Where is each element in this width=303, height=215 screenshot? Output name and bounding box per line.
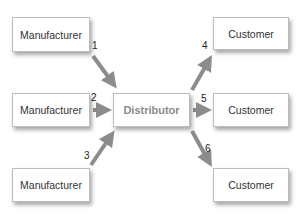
manufacturer-label: Manufacturer [20,104,82,116]
manufacturer-box-1: Manufacturer [12,17,90,52]
edge-label-4: 4 [202,40,208,51]
edge-label-3: 3 [84,150,90,161]
distributor-label: Distributor [123,104,179,116]
edge-label-6: 6 [205,143,211,154]
edge-label-2: 2 [91,92,97,103]
distributor-box: Distributor [113,93,190,127]
edge-label-5: 5 [201,93,207,104]
customer-label: Customer [228,28,274,40]
customer-box-3: Customer [213,168,289,202]
arrow-1 [93,56,112,82]
customer-label: Customer [228,179,274,191]
manufacturer-box-2: Manufacturer [12,93,90,127]
arrow-4 [192,62,208,90]
manufacturer-label: Manufacturer [20,179,82,191]
customer-box-2: Customer [213,93,289,127]
arrow-3 [91,137,110,165]
manufacturer-label: Manufacturer [20,29,82,41]
manufacturer-box-3: Manufacturer [12,168,90,202]
edge-label-1: 1 [92,40,98,51]
customer-box-1: Customer [213,17,289,50]
customer-label: Customer [228,104,274,116]
